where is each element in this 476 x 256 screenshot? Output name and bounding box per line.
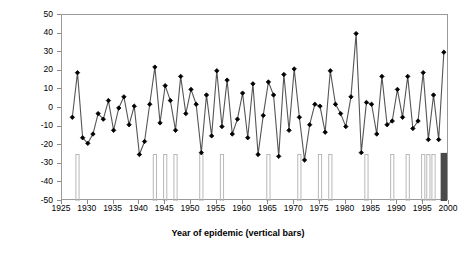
data-point-marker (344, 124, 348, 128)
chart-canvas (62, 15, 449, 201)
y-tick-label: -30 (27, 158, 53, 167)
y-tick-label: 50 (27, 10, 53, 19)
data-point-marker (406, 74, 410, 78)
data-point-marker (369, 102, 373, 106)
x-tick-mark (319, 200, 320, 204)
epidemic-bar (267, 155, 270, 202)
data-point-marker (189, 87, 193, 91)
data-point-marker (163, 83, 167, 87)
data-point-marker (318, 104, 322, 108)
epidemic-bar (422, 155, 425, 202)
data-point-marker (277, 154, 281, 158)
data-point-marker (400, 115, 404, 119)
data-point-marker (292, 67, 296, 71)
x-tick-mark (138, 200, 139, 204)
data-point-marker (354, 31, 358, 35)
data-point-marker (209, 134, 213, 138)
data-point-marker (240, 91, 244, 95)
data-point-marker (215, 69, 219, 73)
data-point-marker (426, 137, 430, 141)
x-tick-mark (293, 200, 294, 204)
data-point-marker (111, 128, 115, 132)
x-tick-mark (396, 200, 397, 204)
data-point-marker (91, 132, 95, 136)
y-tick-mark (57, 144, 61, 145)
epidemic-bar (329, 155, 332, 202)
x-tick-mark (164, 200, 165, 204)
data-point-marker (436, 137, 440, 141)
y-tick-mark (57, 163, 61, 164)
y-tick-mark (57, 181, 61, 182)
epidemic-bar (318, 155, 321, 202)
y-tick-label: 10 (27, 84, 53, 93)
x-tick-mark (267, 200, 268, 204)
data-point-marker (297, 115, 301, 119)
y-tick-mark (57, 33, 61, 34)
y-tick-label: 20 (27, 65, 53, 74)
y-tick-mark (57, 107, 61, 108)
epidemic-bar (76, 155, 79, 202)
x-tick-mark (113, 200, 114, 204)
y-tick-mark (57, 14, 61, 15)
data-point-marker (431, 93, 435, 97)
epidemic-bar (200, 155, 203, 202)
y-tick-label: 0 (27, 103, 53, 112)
data-point-marker (256, 152, 260, 156)
data-point-marker (359, 150, 363, 154)
x-tick-mark (190, 200, 191, 204)
data-point-marker (178, 74, 182, 78)
data-point-marker (349, 95, 353, 99)
y-tick-mark (57, 70, 61, 71)
epidemic-bar (153, 155, 156, 202)
data-point-marker (127, 123, 131, 127)
data-point-marker (220, 124, 224, 128)
data-point-marker (271, 93, 275, 97)
data-point-marker (168, 98, 172, 102)
data-point-marker (333, 102, 337, 106)
data-point-marker (313, 102, 317, 106)
plot-area (61, 14, 448, 200)
data-point-marker (302, 158, 306, 162)
data-point-marker (282, 72, 286, 76)
x-tick-mark (87, 200, 88, 204)
epidemic-bar (391, 155, 394, 202)
data-point-marker (395, 87, 399, 91)
data-point-marker (225, 78, 229, 82)
y-tick-label: -40 (27, 177, 53, 186)
data-point-marker (375, 132, 379, 136)
data-point-marker (235, 117, 239, 121)
data-point-marker (323, 130, 327, 134)
data-point-marker (75, 70, 79, 74)
data-point-marker (380, 74, 384, 78)
data-point-marker (137, 152, 141, 156)
data-point-marker (204, 93, 208, 97)
data-point-marker (184, 111, 188, 115)
data-point-marker (132, 104, 136, 108)
y-tick-mark (57, 88, 61, 89)
epidemic-bar (164, 155, 167, 202)
data-point-marker (122, 95, 126, 99)
data-point-marker (421, 70, 425, 74)
x-tick-mark (216, 200, 217, 204)
data-point-marker (364, 100, 368, 104)
data-point-marker (307, 123, 311, 127)
x-tick-mark (448, 200, 449, 204)
epidemic-bar (220, 155, 223, 202)
epidemic-bar (427, 155, 430, 202)
epidemic-bar (432, 155, 435, 202)
data-point-marker (261, 113, 265, 117)
x-axis-title: Year of epidemic (vertical bars) (0, 228, 476, 238)
x-tick-mark (242, 200, 243, 204)
data-point-marker (148, 102, 152, 106)
data-point-marker (117, 106, 121, 110)
x-tick-mark (345, 200, 346, 204)
x-tick-mark (422, 200, 423, 204)
x-tick-mark (371, 200, 372, 204)
data-point-marker (442, 50, 446, 54)
epidemic-bar (365, 155, 368, 202)
epidemic-bar (406, 155, 409, 202)
x-tick-mark (61, 200, 62, 204)
data-point-marker (287, 128, 291, 132)
data-point-marker (251, 82, 255, 86)
data-point-marker (246, 136, 250, 140)
